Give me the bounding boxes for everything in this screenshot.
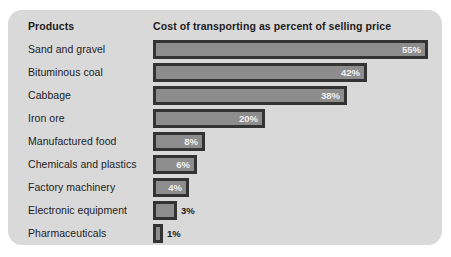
chart-panel: Products Cost of transporting as percent… [8, 10, 442, 245]
bar-row-label: Chemicals and plastics [28, 158, 148, 170]
bar: 55% [153, 40, 428, 59]
bar-value-label: 42% [341, 68, 364, 78]
bar-track: 55% [153, 40, 442, 59]
bar-row-label: Bituminous coal [28, 66, 148, 78]
bar-value-label: 6% [176, 160, 194, 170]
bar-row: Cabbage38% [8, 86, 442, 109]
bar-track: 4% [153, 178, 442, 197]
bar: 4% [153, 178, 189, 197]
bar-row-label: Factory machinery [28, 181, 148, 193]
bar-row-label: Pharmaceuticals [28, 227, 148, 239]
bar-track: 6% [153, 155, 442, 174]
bar [153, 224, 163, 243]
bar-track: 38% [153, 86, 442, 105]
column-header-measure: Cost of transporting as percent of selli… [153, 20, 391, 32]
bar-value-label: 3% [177, 201, 195, 220]
bar-row-label: Iron ore [28, 112, 148, 124]
bar-track: 8% [153, 132, 442, 151]
bar-row: Factory machinery4% [8, 178, 442, 201]
bar: 42% [153, 63, 367, 82]
bar-value-label: 20% [239, 114, 262, 124]
bar-row: Electronic equipment3% [8, 201, 442, 224]
bar-track: 3% [153, 201, 442, 220]
bar-rows-container: Sand and gravel55%Bituminous coal42%Cabb… [8, 40, 442, 247]
bar-row: Manufactured food8% [8, 132, 442, 155]
bar-row: Iron ore20% [8, 109, 442, 132]
bar-row: Pharmaceuticals1% [8, 224, 442, 247]
column-header-products: Products [28, 20, 74, 32]
bar-track: 20% [153, 109, 442, 128]
bar-value-label: 1% [163, 224, 181, 243]
bar-value-label: 8% [184, 137, 202, 147]
bar-row-label: Manufactured food [28, 135, 148, 147]
bar-row-label: Cabbage [28, 89, 148, 101]
bar-row: Sand and gravel55% [8, 40, 442, 63]
bar: 20% [153, 109, 265, 128]
bar [153, 201, 177, 220]
bar: 6% [153, 155, 197, 174]
bar: 38% [153, 86, 347, 105]
bar-value-label: 55% [402, 45, 425, 55]
bar-track: 42% [153, 63, 442, 82]
bar-row-label: Sand and gravel [28, 43, 148, 55]
bar-row-label: Electronic equipment [28, 204, 148, 216]
chart-header-row: Products Cost of transporting as percent… [8, 20, 442, 36]
bar-row: Bituminous coal42% [8, 63, 442, 86]
bar-value-label: 38% [321, 91, 344, 101]
bar-row: Chemicals and plastics6% [8, 155, 442, 178]
bar-track: 1% [153, 224, 442, 243]
bar: 8% [153, 132, 205, 151]
bar-value-label: 4% [168, 183, 186, 193]
